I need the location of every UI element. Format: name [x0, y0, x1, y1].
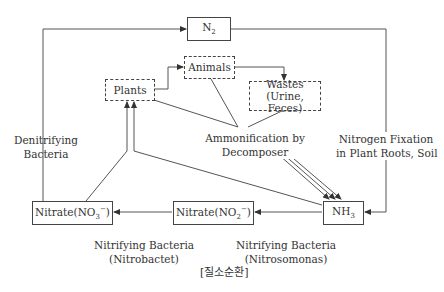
n2-box: N2: [187, 17, 231, 41]
nitrate-no2-box: Nitrate(NO2−): [173, 201, 254, 225]
nitrate-no3-box: Nitrate(NO3−): [32, 201, 113, 225]
plants-label: Plants: [113, 84, 146, 96]
wastes-label-line1: Wastes: [266, 78, 303, 90]
figure-caption: [질소순환]: [200, 263, 249, 279]
animals-box: Animals: [184, 56, 235, 79]
animals-label: Animals: [188, 61, 231, 73]
nh3-label: NH3: [332, 205, 355, 220]
nh3-box: NH3: [323, 201, 364, 225]
nitrosomonas-label: Nitrifying Bacteria (Nitrosomonas): [226, 238, 346, 266]
nitrate-no3-label: Nitrate(NO3−): [35, 205, 110, 221]
plants-box: Plants: [105, 79, 155, 101]
wastes-label-line2: (Urine, Feces): [250, 90, 320, 114]
ammonification-label: Ammonification by Decomposer: [200, 131, 310, 159]
denitrifying-bacteria-label: Denitrifying Bacteria: [8, 133, 84, 161]
n2-label: N2: [202, 21, 216, 36]
nitrogen-cycle-diagram: N2 Animals Plants Wastes (Urine, Feces) …: [0, 0, 444, 292]
wastes-box: Wastes (Urine, Feces): [249, 81, 321, 111]
nitrogen-fixation-label: Nitrogen Fixation in Plant Roots, Soil: [336, 132, 436, 160]
nitrobacter-label: Nitrifying Bacteria (Nitrobactet): [84, 238, 204, 266]
nitrate-no2-label: Nitrate(NO2−): [176, 205, 251, 221]
